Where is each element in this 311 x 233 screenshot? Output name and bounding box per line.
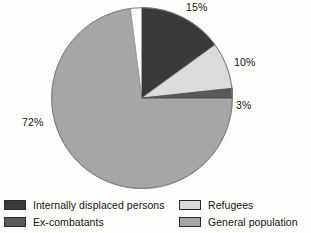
legend-swatch-ex-combatants <box>4 217 26 227</box>
legend-label-refugees: Refugees <box>208 199 253 211</box>
legend-label-ex-combatants: Ex-combatants <box>33 216 104 228</box>
slice-value-ex-combatants: 3% <box>236 100 251 111</box>
slice-value-internally-displaced-persons: 15% <box>186 2 207 13</box>
slice-value-refugees: 10% <box>234 57 255 68</box>
legend-item-general-population[interactable]: General population <box>178 213 311 230</box>
legend-item-internally-displaced-persons[interactable]: Internally displaced persons <box>0 196 178 213</box>
legend-item-refugees[interactable]: Refugees <box>178 196 311 213</box>
legend-label-general-population: General population <box>208 216 298 228</box>
legend-swatch-refugees <box>179 200 201 210</box>
legend-label-internally-displaced-persons: Internally displaced persons <box>33 199 165 211</box>
chart-legend: Internally displaced persons Refugees Ex… <box>0 196 311 233</box>
legend-item-ex-combatants[interactable]: Ex-combatants <box>0 213 178 230</box>
legend-swatch-internally-displaced-persons <box>4 200 26 210</box>
pie-chart-figure: 15% 10% 3% 72% Internally displaced pers… <box>0 0 311 233</box>
pie-plot-area: 15% 10% 3% 72% <box>0 0 311 194</box>
legend-swatch-general-population <box>179 217 201 227</box>
pie-svg <box>51 7 233 189</box>
slice-value-general-population: 72% <box>22 117 43 128</box>
